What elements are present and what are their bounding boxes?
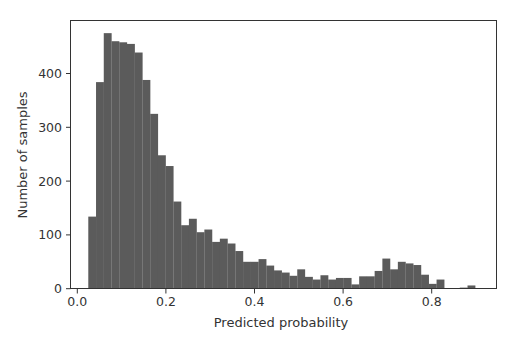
histogram-bar: [166, 166, 174, 289]
histogram-bar: [150, 114, 158, 289]
histogram-bar: [320, 275, 328, 288]
x-tick-label: 0.6: [333, 294, 353, 309]
y-tick-label: 0: [54, 281, 62, 296]
x-tick-label: 0.2: [156, 294, 176, 309]
histogram-bar: [266, 266, 274, 289]
histogram-bar: [243, 262, 251, 289]
histogram-bar: [135, 53, 143, 289]
histogram-bar: [235, 251, 243, 289]
x-axis-ticks: 0.00.20.40.60.8: [67, 289, 441, 309]
histogram-bar: [382, 259, 390, 289]
histogram-bar: [313, 280, 321, 289]
histogram-chart: 0.00.20.40.60.8 0100200300400 Predicted …: [0, 0, 515, 345]
histogram-bar: [421, 275, 429, 289]
histogram-bar: [181, 225, 189, 288]
histogram-bar: [328, 280, 336, 289]
histogram-bar: [212, 242, 220, 289]
y-tick-label: 400: [38, 66, 62, 81]
histogram-bar: [274, 270, 282, 288]
x-tick-label: 0.4: [245, 294, 265, 309]
histogram-bar: [142, 80, 150, 289]
y-axis-ticks: 0100200300400: [38, 66, 70, 296]
histogram-bar: [112, 41, 120, 288]
histogram-bar: [297, 269, 305, 288]
histogram-bar: [173, 202, 181, 289]
x-axis-label: Predicted probability: [214, 315, 349, 330]
histogram-bar: [197, 232, 205, 288]
x-tick-label: 0.0: [67, 294, 87, 309]
y-tick-label: 300: [38, 120, 62, 135]
histogram-bar: [88, 217, 96, 289]
y-axis-label: Number of samples: [15, 91, 30, 218]
histogram-bar: [259, 259, 267, 289]
histogram-bar: [336, 278, 344, 289]
histogram-bar: [367, 276, 375, 288]
x-tick-label: 0.8: [422, 294, 442, 309]
histogram-bar: [390, 269, 398, 288]
histogram-bar: [305, 277, 313, 289]
histogram-bar: [127, 44, 135, 289]
histogram-bars: [88, 33, 475, 289]
histogram-bar: [429, 284, 437, 289]
y-tick-label: 200: [38, 174, 62, 189]
histogram-bar: [158, 155, 166, 288]
histogram-bar: [204, 230, 212, 289]
histogram-bar: [375, 271, 383, 289]
histogram-bar: [119, 42, 127, 288]
histogram-bar: [189, 219, 197, 289]
histogram-bar: [437, 280, 445, 289]
histogram-bar: [104, 33, 112, 289]
y-tick-label: 100: [38, 227, 62, 242]
histogram-bar: [344, 278, 352, 289]
histogram-bar: [96, 82, 104, 289]
histogram-bar: [228, 244, 236, 289]
histogram-bar: [220, 239, 228, 289]
histogram-bar: [359, 276, 367, 288]
histogram-bar: [290, 276, 298, 289]
histogram-bar: [251, 262, 259, 289]
histogram-bar: [406, 263, 414, 288]
histogram-bar: [282, 273, 290, 289]
histogram-bar: [398, 262, 406, 289]
histogram-bar: [413, 265, 421, 289]
